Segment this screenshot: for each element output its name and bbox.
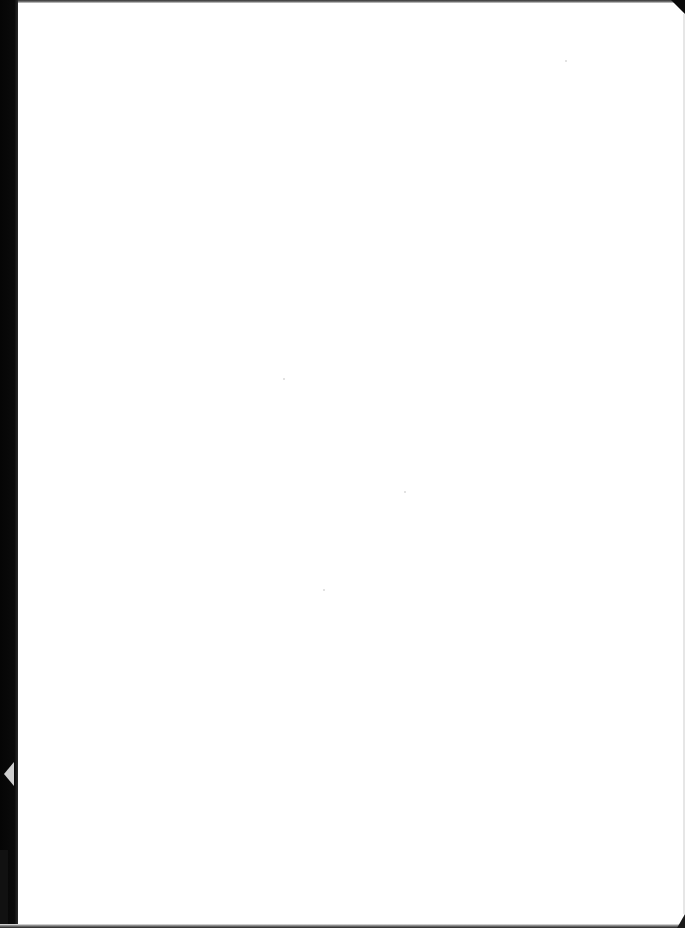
dust-speck	[323, 589, 325, 591]
dust-speck	[404, 491, 406, 493]
page-corner-bottom-right	[677, 914, 685, 928]
scanner-left-border-lower	[0, 850, 8, 928]
scanned-page	[0, 0, 685, 928]
scanner-top-border	[18, 0, 678, 3]
scanner-bottom-border	[0, 924, 685, 928]
dust-speck	[283, 378, 285, 380]
dust-speck	[565, 60, 567, 62]
scanner-left-border	[0, 0, 18, 928]
